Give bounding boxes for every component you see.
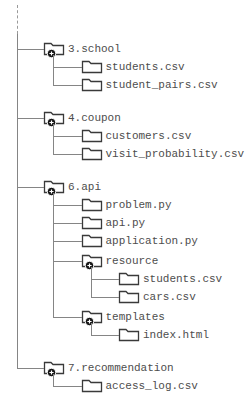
tree-item-access-log-csv[interactable]: access_log.csv <box>81 377 198 396</box>
tree-item-problem-py[interactable]: problem.py <box>81 196 172 215</box>
folder-icon <box>81 232 103 251</box>
tree-branch-line <box>53 154 82 155</box>
tree-connector-line <box>53 55 54 85</box>
tree-item-label: application.py <box>106 232 198 251</box>
tree-branch-line <box>53 241 82 242</box>
tree-connector-line <box>53 374 54 386</box>
tree-item-templates[interactable]: templates <box>81 308 165 327</box>
tree-branch-line <box>91 335 120 336</box>
tree-item-4-coupon[interactable]: 4.coupon <box>43 109 121 128</box>
tree-branch-line <box>91 297 120 298</box>
tree-branch-line <box>53 386 82 387</box>
folder-icon <box>43 40 65 59</box>
folder-icon <box>81 196 103 215</box>
tree-connector-line <box>91 323 92 335</box>
folder-icon <box>81 76 103 95</box>
expand-badge-icon[interactable] <box>85 317 93 325</box>
tree-item-customers-csv[interactable]: customers.csv <box>81 127 192 146</box>
tree-item-index-html[interactable]: index.html <box>118 326 209 345</box>
tree-item-visit-probability-csv[interactable]: visit_probability.csv <box>81 145 245 164</box>
tree-branch-line <box>53 261 82 262</box>
tree-branch-line <box>53 223 82 224</box>
tree-item-label: resource <box>106 252 159 271</box>
tree-item-3-school[interactable]: 3.school <box>43 40 121 59</box>
tree-item-student-pairs-csv[interactable]: student_pairs.csv <box>81 76 218 95</box>
tree-connector-line <box>91 267 92 297</box>
tree-branch-line <box>53 205 82 206</box>
folder-icon <box>81 145 103 164</box>
tree-root-dashed-line <box>17 5 18 34</box>
folder-icon <box>118 326 140 345</box>
tree-trunk-line <box>17 34 18 368</box>
folder-icon <box>43 178 65 197</box>
tree-item-label: 3.school <box>68 40 121 59</box>
folder-icon <box>81 127 103 146</box>
tree-trunk-branch-line <box>17 49 44 50</box>
folder-icon <box>43 109 65 128</box>
tree-item-label: customers.csv <box>106 127 192 146</box>
tree-branch-line <box>53 85 82 86</box>
folder-icon <box>118 270 140 289</box>
folder-icon <box>118 288 140 307</box>
tree-item-application-py[interactable]: application.py <box>81 232 198 251</box>
tree-trunk-branch-line <box>17 368 44 369</box>
expand-badge-icon[interactable] <box>47 49 55 57</box>
tree-item-label: students.csv <box>143 270 222 289</box>
folder-icon <box>81 214 103 233</box>
expand-badge-icon[interactable] <box>47 187 55 195</box>
tree-connector-line <box>53 124 54 154</box>
folder-icon <box>43 359 65 378</box>
tree-branch-line <box>53 67 82 68</box>
expand-badge-icon[interactable] <box>47 118 55 126</box>
tree-item-6-api[interactable]: 6.api <box>43 178 101 197</box>
folder-icon <box>81 308 103 327</box>
tree-item-students-csv[interactable]: students.csv <box>118 270 222 289</box>
tree-connector-line <box>53 193 54 317</box>
expand-badge-icon[interactable] <box>47 368 55 376</box>
folder-icon <box>81 252 103 271</box>
tree-item-label: index.html <box>143 326 209 345</box>
tree-item-students-csv[interactable]: students.csv <box>81 58 185 77</box>
tree-branch-line <box>53 136 82 137</box>
tree-trunk-branch-line <box>17 118 44 119</box>
tree-item-api-py[interactable]: api.py <box>81 214 146 233</box>
tree-item-label: students.csv <box>106 58 185 77</box>
tree-item-label: visit_probability.csv <box>106 145 245 164</box>
tree-item-label: api.py <box>106 214 146 233</box>
tree-item-label: 6.api <box>68 178 101 197</box>
tree-item-7-recommendation[interactable]: 7.recommendation <box>43 359 174 378</box>
folder-icon <box>81 58 103 77</box>
tree-item-label: templates <box>106 308 165 327</box>
tree-item-label: problem.py <box>106 196 172 215</box>
tree-item-label: access_log.csv <box>106 377 198 396</box>
tree-branch-line <box>91 279 120 280</box>
tree-item-label: student_pairs.csv <box>106 76 218 95</box>
tree-branch-line <box>53 317 82 318</box>
tree-item-label: 4.coupon <box>68 109 121 128</box>
tree-trunk-branch-line <box>17 187 44 188</box>
tree-item-label: cars.csv <box>143 288 196 307</box>
expand-badge-icon[interactable] <box>85 261 93 269</box>
tree-item-label: 7.recommendation <box>68 359 174 378</box>
folder-icon <box>81 377 103 396</box>
file-tree: 3.schoolstudents.csvstudent_pairs.csv4.c… <box>0 0 248 415</box>
tree-item-resource[interactable]: resource <box>81 252 159 271</box>
tree-item-cars-csv[interactable]: cars.csv <box>118 288 196 307</box>
